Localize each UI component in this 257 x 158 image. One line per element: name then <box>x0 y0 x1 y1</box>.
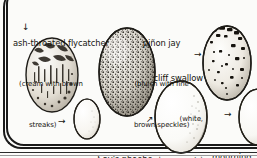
label-hummingbird: hummingbird (white) <box>8 126 70 158</box>
label-name-ash-throated-flycatcher: ash-throated flycatcher <box>13 39 109 48</box>
bottom-divider-dark <box>0 152 257 153</box>
arrow-right-icon-hummingbird: → <box>58 117 66 126</box>
label-desc1-ash-throated-flycatcher: (cream with brown <box>13 81 109 88</box>
arrow-right-icon-cliff-swallow: → <box>194 50 202 59</box>
bottom-divider-light <box>0 155 257 156</box>
arrow-right-icon-mourning-dove: → <box>224 110 232 119</box>
egg-identification-figure: ash-throated flycatcher (cream with brow… <box>0 0 257 158</box>
arrow-right-icon-says-phoebe: ↗ <box>146 115 154 124</box>
arrow-down-icon-flycatcher: ↓ <box>22 23 30 32</box>
label-name-cliff-swallow: cliff swallow <box>150 74 203 83</box>
